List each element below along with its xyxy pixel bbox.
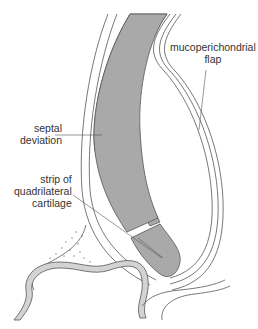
nasal-floor-band	[14, 261, 148, 320]
label-deviation-line1: septal	[20, 122, 62, 134]
lower-right-contour-1	[142, 280, 225, 306]
label-deviation-line2: deviation	[20, 134, 62, 146]
label-flap-line1: mucoperichondrial	[170, 41, 256, 53]
label-strip-line2: quadrilateral	[14, 185, 72, 197]
label-flap-line2: flap	[170, 53, 256, 65]
label-mucoperichondrial-flap: mucoperichondrial flap	[170, 41, 256, 65]
diagram-canvas: mucoperichondrial flap septal deviation …	[0, 0, 258, 329]
bone-stipple	[49, 231, 90, 262]
premaxilla-outline	[32, 225, 86, 290]
label-strip-line3: cartilage	[14, 197, 72, 209]
leader-flap	[199, 70, 206, 130]
septal-cartilage-body	[94, 14, 167, 232]
label-quadrilateral-cartilage-strip: strip of quadrilateral cartilage	[14, 173, 72, 209]
label-strip-line1: strip of	[14, 173, 72, 185]
label-septal-deviation: septal deviation	[20, 122, 62, 146]
